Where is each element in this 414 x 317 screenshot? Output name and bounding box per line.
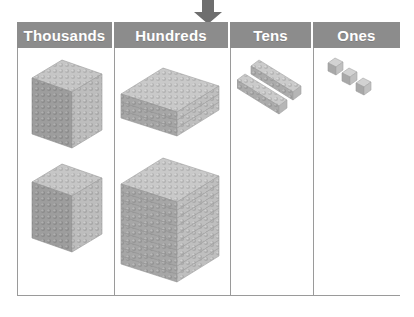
header-cell-thousands: Thousands [17,22,114,48]
header-cell-tens: Tens [230,22,313,48]
ten-rod-group [231,48,313,295]
hundred-flat-group [115,48,230,295]
cell-thousands [18,48,115,295]
cell-ones [314,48,401,295]
place-value-chart: Thousands Hundreds Tens Ones [17,22,400,296]
one-unit-3 [356,78,371,95]
hundred-flat-group-bottom [121,158,219,282]
one-unit-1 [328,58,343,75]
hundred-flat-icon [119,54,231,295]
thousand-cube-group [18,48,114,295]
ten-rod-icon [237,54,309,134]
place-value-body-row [17,48,400,296]
header-cell-ones: Ones [313,22,400,48]
header-label-hundreds: Hundreds [135,27,207,44]
header-label-ones: Ones [337,27,375,44]
one-unit-icon [322,54,394,116]
header-label-thousands: Thousands [24,27,106,44]
pointer-arrow [190,0,226,24]
place-value-header-row: Thousands Hundreds Tens Ones [17,22,400,48]
thousand-cube-icon [28,56,108,286]
header-label-tens: Tens [253,27,288,44]
thousand-cube-1 [32,60,102,148]
cell-tens [231,48,314,295]
header-cell-hundreds: Hundreds [114,22,230,48]
one-unit-group [314,48,401,295]
cell-hundreds [115,48,231,295]
arrow-down-icon [190,0,226,24]
thousand-cube-2 [32,164,102,252]
one-unit-2 [342,68,357,85]
hundred-flat-group-top [121,68,219,136]
